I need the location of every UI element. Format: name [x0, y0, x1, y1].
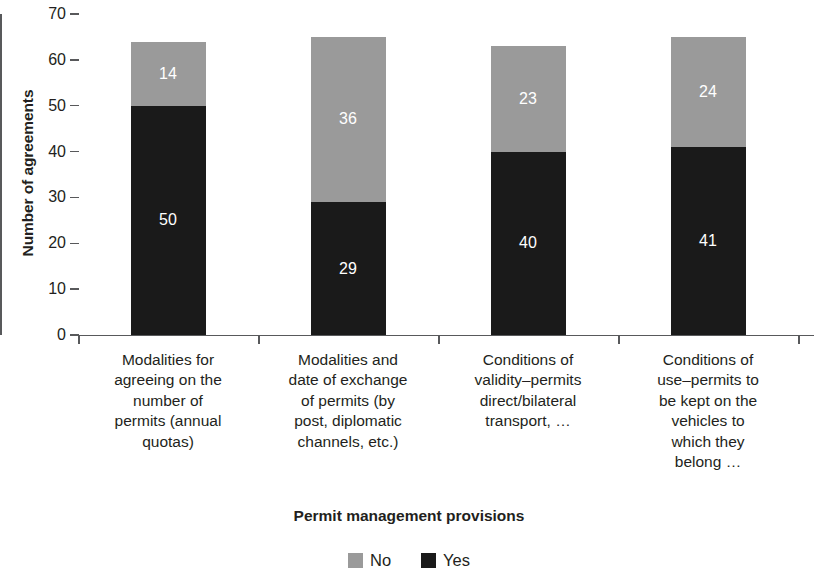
- y-axis-title: Number of agreements: [19, 48, 37, 298]
- y-tick-label-40: 40: [26, 144, 66, 160]
- x-category-label-line: permits (annual: [86, 411, 250, 431]
- y-tick-label-10: 10: [26, 281, 66, 297]
- x-category-label-line: Modalities for: [86, 350, 250, 370]
- bar-stack[interactable]: 4124: [671, 37, 746, 335]
- y-tick-label-60: 60: [26, 52, 66, 68]
- y-axis-line: [0, 14, 2, 335]
- bar-value-label-no: 23: [519, 91, 537, 107]
- x-category-label-line: Conditions of: [626, 350, 790, 370]
- x-category-label-line: post, diplomatic: [266, 411, 430, 431]
- x-category-label-line: Modalities and: [266, 350, 430, 370]
- legend-label: Yes: [443, 552, 470, 569]
- y-tick-label-20: 20: [26, 235, 66, 251]
- y-tick-label-50: 50: [26, 98, 66, 114]
- x-category-label-line: date of exchange: [266, 370, 430, 390]
- plot-area: 5014293640234124: [78, 14, 813, 335]
- bar-value-label-yes: 50: [159, 212, 177, 228]
- bar-segment-yes[interactable]: 29: [311, 202, 386, 335]
- x-category-label-line: direct/bilateral: [446, 391, 610, 411]
- x-category-label: Modalities anddate of exchangeof permits…: [266, 350, 430, 452]
- legend-swatch-icon: [421, 553, 436, 568]
- bar-stack[interactable]: 5014: [131, 42, 206, 335]
- x-category-label-line: belong …: [626, 452, 790, 472]
- bar-stack[interactable]: 2936: [311, 37, 386, 335]
- bar-segment-no[interactable]: 36: [311, 37, 386, 202]
- bar-segment-no[interactable]: 24: [671, 37, 746, 147]
- legend-item-no[interactable]: No: [348, 552, 391, 569]
- bar-value-label-no: 14: [159, 66, 177, 82]
- bar-value-label-yes: 41: [699, 233, 717, 249]
- x-category-label: Conditions ofvalidity–permitsdirect/bila…: [446, 350, 610, 432]
- x-category-label-line: agreeing on the: [86, 370, 250, 390]
- legend-item-yes[interactable]: Yes: [421, 552, 470, 569]
- x-category-label-line: channels, etc.): [266, 432, 430, 452]
- x-tick-mark-3: [618, 335, 620, 344]
- x-axis-title: Permit management provisions: [0, 507, 818, 525]
- x-category-label-line: quotas): [86, 432, 250, 452]
- x-category-label-line: which they: [626, 432, 790, 452]
- y-tick-label-70: 70: [26, 6, 66, 22]
- x-category-label-line: of permits (by: [266, 391, 430, 411]
- bar-segment-no[interactable]: 23: [491, 46, 566, 151]
- x-tick-mark-2: [438, 335, 440, 344]
- x-category-label-line: Conditions of: [446, 350, 610, 370]
- bar-value-label-no: 36: [339, 111, 357, 127]
- x-category-label-line: number of: [86, 391, 250, 411]
- y-tick-label-0: 0: [26, 327, 66, 343]
- x-category-label-line: validity–permits: [446, 370, 610, 390]
- legend-label: No: [370, 552, 391, 569]
- x-category-label: Modalities foragreeing on thenumber ofpe…: [86, 350, 250, 452]
- x-category-label-line: vehicles to: [626, 411, 790, 431]
- y-tick-label-30: 30: [26, 189, 66, 205]
- bar-value-label-yes: 29: [339, 261, 357, 277]
- bar-segment-yes[interactable]: 50: [131, 106, 206, 335]
- bar-segment-yes[interactable]: 40: [491, 152, 566, 335]
- chart-legend: NoYes: [0, 552, 818, 569]
- stacked-bar-chart: Number of agreements 010203040506070 501…: [0, 0, 818, 587]
- x-category-label-line: transport, …: [446, 411, 610, 431]
- legend-swatch-icon: [348, 553, 363, 568]
- x-tick-mark-0: [78, 335, 80, 344]
- x-category-label-line: use–permits to: [626, 370, 790, 390]
- bar-value-label-no: 24: [699, 84, 717, 100]
- x-tick-mark-1: [258, 335, 260, 344]
- x-category-label-line: be kept on the: [626, 391, 790, 411]
- x-category-label: Conditions ofuse–permits tobe kept on th…: [626, 350, 790, 473]
- bar-stack[interactable]: 4023: [491, 46, 566, 335]
- bar-segment-yes[interactable]: 41: [671, 147, 746, 335]
- x-tick-mark-4: [798, 335, 800, 344]
- bar-segment-no[interactable]: 14: [131, 42, 206, 106]
- bar-value-label-yes: 40: [519, 235, 537, 251]
